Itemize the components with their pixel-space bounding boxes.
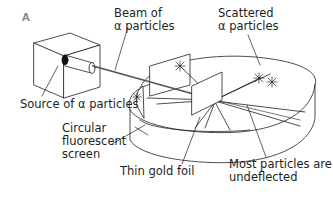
source-dot — [62, 55, 68, 65]
beam-label: Beam of α particles — [114, 7, 175, 33]
gold-foil — [192, 72, 222, 115]
screen-label: Circular fluorescent screen — [62, 122, 126, 161]
scattered-label: Scattered α particles — [218, 7, 279, 33]
back-plate — [150, 54, 190, 96]
undeflected-label: Most particles are undeflected — [229, 158, 332, 184]
source-label: Source of α particles — [20, 98, 139, 111]
foil-label: Thin gold foil — [120, 165, 194, 178]
